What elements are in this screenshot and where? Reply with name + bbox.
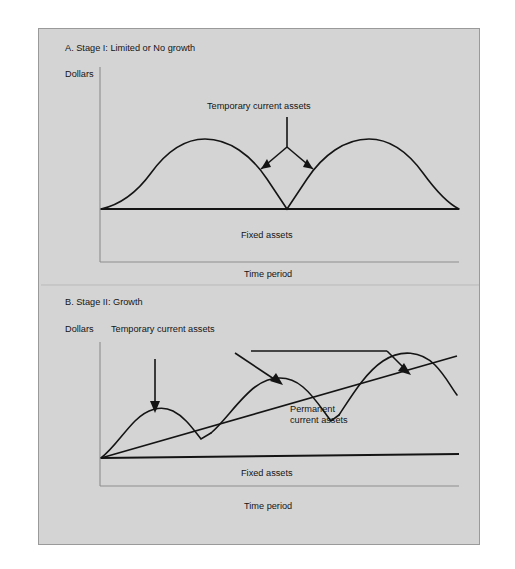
panel-b-callout-arrow-1-head — [150, 401, 160, 413]
panel-b-y-axis-label: Dollars — [65, 324, 94, 335]
panel-a-callout-arrow-left-head — [261, 159, 271, 169]
panel-a-y-axis-label: Dollars — [65, 69, 94, 80]
panel-a-x-axis-label: Time period — [244, 269, 292, 280]
panel-b-callout-arrow-2-shaft — [235, 353, 277, 381]
panel-b-title: B. Stage II: Growth — [65, 297, 143, 308]
panel-b-fixed-assets-label: Fixed assets — [241, 468, 293, 479]
panel-a-temporary-current-assets-label: Temporary current assets — [207, 101, 311, 112]
page-header-ghost-text — [52, 0, 252, 7]
panel-b-callout-arrow-2-head — [270, 373, 283, 385]
panel-a-title: A. Stage I: Limited or No growth — [65, 43, 195, 54]
figure-container: A. Stage I: Limited or No growth Dollars… — [38, 28, 480, 545]
panel-b-x-axis-label: Time period — [244, 501, 292, 512]
panel-b-permanent-current-assets-label-line1: Permanent — [290, 404, 335, 415]
panel-b-fixed-assets-line — [101, 454, 459, 458]
panel-a-callout-arrow-right-head — [303, 159, 313, 169]
panel-b-permanent-current-assets-label-line2: current assets — [290, 415, 348, 426]
panel-a-temporary-current-assets-curve — [101, 139, 459, 209]
panel-b-temporary-current-assets-label: Temporary current assets — [111, 324, 215, 335]
panel-a-fixed-assets-label: Fixed assets — [241, 230, 293, 241]
panel-b-hump-1 — [101, 408, 211, 458]
